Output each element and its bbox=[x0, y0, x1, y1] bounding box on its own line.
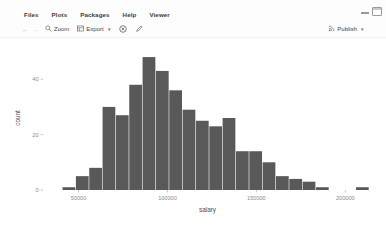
tab-help[interactable]: Help bbox=[123, 11, 137, 18]
svg-text:150000: 150000 bbox=[247, 195, 266, 201]
chevron-down-icon: ▾ bbox=[361, 26, 364, 32]
clear-all-plots-icon bbox=[135, 25, 143, 34]
magnifier-icon bbox=[45, 25, 52, 33]
svg-text:100000: 100000 bbox=[158, 195, 177, 201]
tab-files[interactable]: Files bbox=[24, 11, 39, 18]
export-image-icon bbox=[77, 25, 84, 33]
tab-viewer[interactable]: Viewer bbox=[149, 11, 169, 18]
svg-text:0: 0 bbox=[35, 187, 38, 193]
export-button[interactable]: Export ▾ bbox=[77, 25, 110, 33]
zoom-button-label: Zoom bbox=[54, 26, 69, 32]
plot-output-area: 0204050000100000150000200000salarycount bbox=[0, 38, 386, 228]
publish-button-label: Publish bbox=[337, 26, 357, 32]
svg-text:50000: 50000 bbox=[71, 195, 87, 201]
publish-button[interactable]: Publish ▾ bbox=[328, 22, 364, 36]
pane-tab-bar: Files Plots Packages Help Viewer bbox=[0, 8, 386, 21]
previous-plot-icon[interactable]: ← bbox=[22, 26, 28, 33]
tab-plots[interactable]: Plots bbox=[52, 11, 68, 18]
rstudio-plots-pane: Files Plots Packages Help Viewer ← → Zoo… bbox=[0, 0, 386, 228]
remove-plot-icon bbox=[119, 25, 127, 34]
histogram-plot: 0204050000100000150000200000salarycount bbox=[0, 38, 386, 228]
window-controls bbox=[361, 7, 382, 16]
svg-text:salary: salary bbox=[199, 206, 217, 214]
remove-plot-button[interactable] bbox=[119, 25, 127, 34]
svg-text:40: 40 bbox=[32, 76, 38, 82]
chevron-down-icon: ▾ bbox=[108, 26, 111, 32]
zoom-button[interactable]: Zoom bbox=[45, 25, 69, 33]
minimize-icon[interactable] bbox=[361, 9, 369, 15]
svg-text:count: count bbox=[14, 110, 21, 126]
svg-text:20: 20 bbox=[32, 132, 38, 138]
tab-packages[interactable]: Packages bbox=[80, 11, 109, 18]
plots-toolbar: ← → Zoom Export ▾ bbox=[0, 22, 386, 36]
clear-all-plots-button[interactable] bbox=[135, 25, 143, 34]
next-plot-icon[interactable]: → bbox=[32, 26, 38, 33]
publish-icon bbox=[328, 25, 335, 33]
maximize-icon[interactable] bbox=[372, 7, 382, 16]
export-button-label: Export bbox=[86, 26, 103, 32]
svg-text:200000: 200000 bbox=[336, 195, 355, 201]
